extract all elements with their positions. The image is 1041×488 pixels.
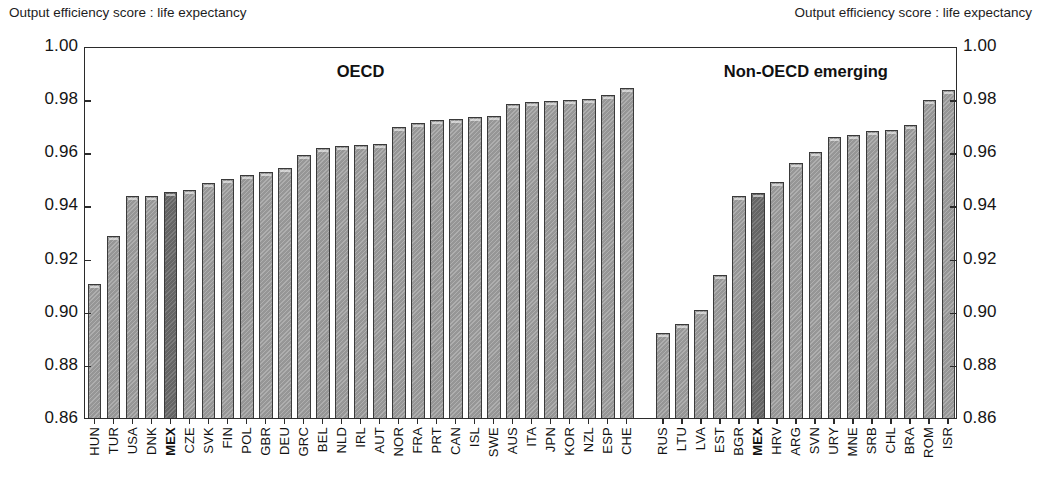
y-tick-label-left: 0.94 [45,195,79,215]
bar [828,137,842,418]
x-tick-mark [852,419,853,424]
x-tick-label: LTU [674,427,689,451]
x-tick-label: ISL [467,427,482,447]
bar [297,155,311,418]
bar [126,196,140,418]
y-tick-mark [950,313,957,315]
bar [904,125,918,418]
x-tick-label: RUS [655,427,670,455]
x-tick-label: NLD [334,427,349,454]
x-tick-mark [436,419,437,424]
x-tick-label: MNE [845,427,860,457]
x-tick-mark [947,419,948,424]
y-tick-label-right: 0.86 [963,408,997,428]
y-tick-label-right: 1.00 [963,36,997,56]
y-tick-label-right: 0.88 [963,355,997,375]
x-tick-mark [227,419,228,424]
bar [847,135,861,418]
bar [449,119,463,418]
x-tick-mark [550,419,551,424]
x-tick-label: ITA [524,427,539,447]
y-tick-label-right: 0.92 [963,249,997,269]
bar-series [85,48,956,418]
bar [259,172,273,418]
y-tick-label-left: 0.98 [45,89,79,109]
bar [107,236,121,418]
x-tick-mark [626,419,627,424]
bar-highlighted [751,193,765,418]
y-tick-label-right: 0.94 [963,195,997,215]
bar [183,190,197,418]
bar [656,333,670,418]
bar [468,117,482,418]
right-axis-caption: Output efficiency score : life expectanc… [794,5,1032,20]
x-tick-mark [132,419,133,424]
y-tick-mark [84,313,91,315]
bar [411,123,425,418]
x-tick-label: BRA [902,427,917,454]
bar [885,130,899,418]
x-tick-label: ISR [940,427,955,449]
bar [202,183,216,418]
y-tick-mark [950,206,957,208]
y-tick-mark [84,153,91,155]
bar [145,196,159,418]
bar [563,100,577,418]
x-tick-label: AUT [372,427,387,454]
y-tick-label-right: 0.98 [963,89,997,109]
x-tick-mark [417,419,418,424]
y-tick-mark [84,206,91,208]
y-tick-mark [84,260,91,262]
x-tick-mark [833,419,834,424]
x-tick-mark [265,419,266,424]
bar [487,116,501,418]
x-tick-mark [776,419,777,424]
left-axis-caption: Output efficiency score : life expectanc… [9,5,247,20]
bar [694,310,708,418]
x-tick-label: SWE [486,427,501,457]
bar [620,88,634,418]
x-tick-mark [151,419,152,424]
chart-figure: Output efficiency score : life expectanc… [0,0,1041,488]
bar [354,145,368,418]
x-tick-mark [662,419,663,424]
x-tick-label: EST [712,427,727,453]
bar [88,284,102,418]
x-tick-label: BGR [731,427,746,456]
x-tick-label: DNK [144,427,159,455]
bar [221,179,235,418]
x-tick-label: USA [125,427,140,454]
x-tick-label: FIN [220,427,235,449]
x-tick-mark [890,419,891,424]
y-tick-mark [84,100,91,102]
x-tick-mark [379,419,380,424]
x-tick-label: POL [239,427,254,454]
x-tick-label: NZL [581,427,596,452]
bar [582,99,596,418]
bar [866,131,880,418]
bar [335,146,349,418]
x-tick-label: CHE [619,427,634,455]
x-tick-label: SVN [807,427,822,454]
x-tick-label: CZE [182,427,197,454]
bar [544,101,558,418]
x-tick-mark [455,419,456,424]
bar [923,100,937,418]
plot-area: OECD Non-OECD emerging [84,47,957,419]
x-tick-label: ROM [921,427,936,458]
x-tick-label: MEX [163,427,178,456]
bar [601,95,615,418]
x-tick-mark [700,419,701,424]
bar [713,275,727,418]
x-tick-mark [871,419,872,424]
bar [506,104,520,418]
x-tick-mark [360,419,361,424]
x-tick-mark [246,419,247,424]
x-tick-mark [814,419,815,424]
bar [675,324,689,418]
bar [732,196,746,418]
x-tick-label: AUS [505,427,520,454]
y-tick-label-left: 1.00 [45,36,79,56]
bar [525,102,539,418]
x-tick-label: LVA [693,427,708,450]
